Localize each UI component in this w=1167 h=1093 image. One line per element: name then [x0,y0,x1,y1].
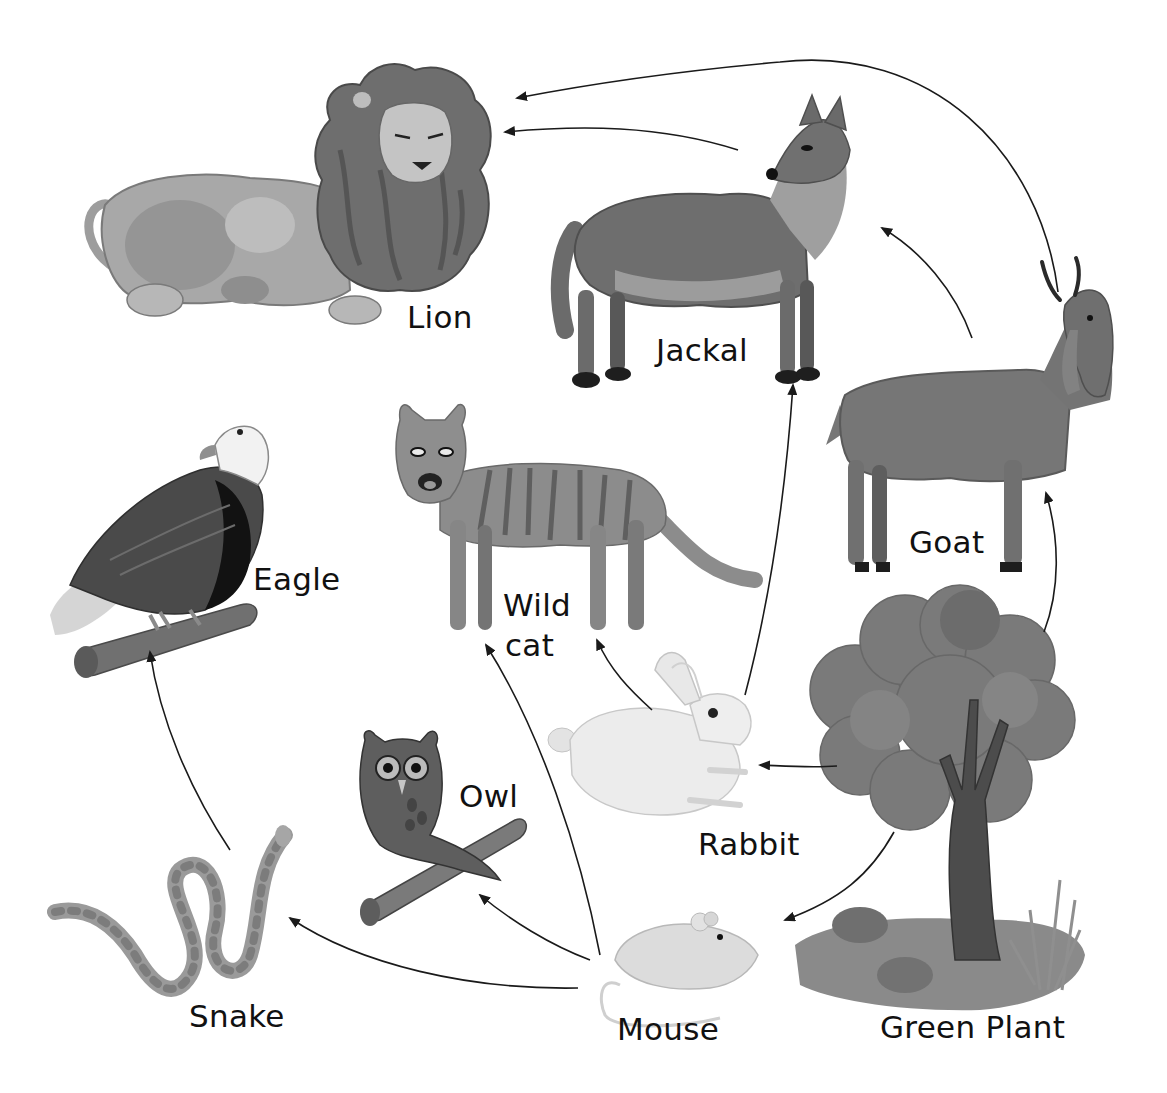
label-goat: Goat [909,527,984,558]
arrow-plant-to-goat [1044,493,1056,632]
label-owl: Owl [459,781,518,812]
label-mouse: Mouse [617,1014,719,1045]
arrow-mouse-to-owl [480,895,590,960]
food-web-diagram: Lion Jackal Goat Eagle Wild cat Owl Rabb… [0,0,1167,1093]
label-jackal: Jackal [656,335,748,366]
eagle-icon [50,426,268,678]
label-wild-cat-line1: Wild [503,590,571,621]
owl-icon [360,731,526,926]
arrow-rabbit-to-jackal [745,385,793,695]
diagram-canvas [0,0,1167,1093]
arrow-mouse-to-snake [290,918,578,988]
tree-icon [795,585,1085,1010]
label-snake: Snake [189,1001,285,1032]
wild-cat-icon [396,404,755,630]
mouse-icon [601,912,758,1026]
label-green-plant: Green Plant [880,1012,1065,1043]
label-wild-cat-line2: cat [505,630,554,661]
lion-icon [89,64,491,324]
label-eagle: Eagle [253,564,340,595]
arrow-snake-to-eagle [150,652,230,850]
arrow-goat-to-jackal [882,228,972,338]
label-lion: Lion [407,302,473,333]
arrow-jackal-to-lion [505,128,738,150]
arrow-plant-to-mouse [785,832,894,920]
arrow-rabbit-to-wildcat [597,640,652,710]
label-rabbit: Rabbit [698,829,800,860]
rabbit-icon [548,653,751,815]
snake-icon [55,825,291,989]
